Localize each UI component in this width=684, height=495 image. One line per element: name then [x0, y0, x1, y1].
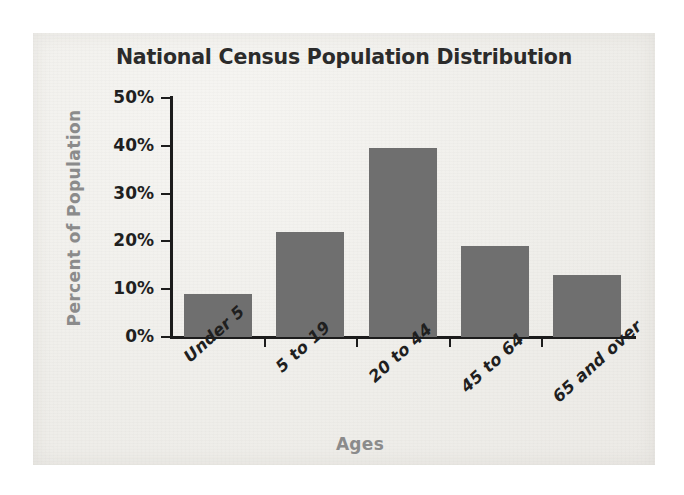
y-tick-label: 50% [92, 87, 154, 107]
y-tick-label: 0% [92, 326, 154, 346]
y-tick-label: 20% [92, 230, 154, 250]
y-tick-mark [161, 97, 171, 99]
y-tick-label: 40% [92, 135, 154, 155]
x-axis-title: Ages [280, 434, 440, 454]
x-tick-mark [356, 338, 358, 347]
y-tick-mark [161, 240, 171, 242]
bar [461, 246, 529, 337]
y-tick-mark [161, 145, 171, 147]
y-tick-mark [161, 193, 171, 195]
plot-area [172, 98, 633, 337]
y-tick-mark [161, 288, 171, 290]
bar [276, 232, 344, 337]
chart-title: National Census Population Distribution [33, 45, 655, 69]
y-tick-mark [161, 336, 171, 338]
bar [553, 275, 621, 337]
bar [369, 148, 437, 337]
x-tick-mark [541, 338, 543, 347]
y-axis-title: Percent of Population [64, 93, 84, 343]
y-tick-label: 10% [92, 278, 154, 298]
x-tick-mark [264, 338, 266, 347]
chart-page: National Census Population Distribution … [0, 0, 684, 495]
y-tick-label: 30% [92, 183, 154, 203]
x-tick-mark [449, 338, 451, 347]
